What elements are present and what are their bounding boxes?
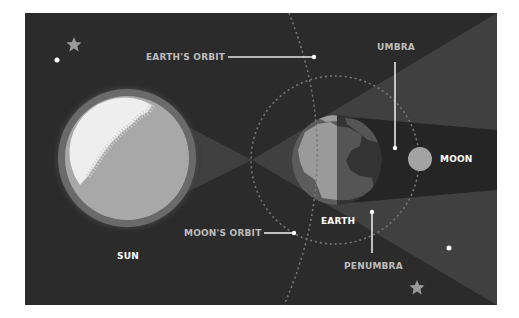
moon — [408, 147, 432, 171]
star-dot — [447, 246, 452, 251]
sun — [51, 82, 203, 234]
eclipse-diagram: EARTH'S ORBIT UMBRA MOON EARTH MOON'S OR… — [0, 0, 519, 318]
star-dot — [55, 58, 60, 63]
umbra-leader-dot — [393, 146, 397, 150]
label-moons-orbit: MOON'S ORBIT — [184, 228, 262, 238]
label-earths-orbit: EARTH'S ORBIT — [146, 52, 225, 62]
earths-orbit-leader-dot — [312, 55, 316, 59]
label-earth: EARTH — [321, 216, 355, 226]
label-sun: SUN — [117, 251, 139, 261]
label-moon: MOON — [440, 154, 473, 164]
label-umbra: UMBRA — [377, 42, 415, 52]
moons-orbit-leader-dot — [292, 231, 296, 235]
label-penumbra: PENUMBRA — [344, 261, 403, 271]
penumbra-leader-dot — [370, 210, 374, 214]
